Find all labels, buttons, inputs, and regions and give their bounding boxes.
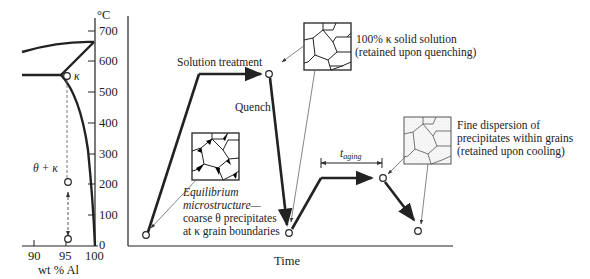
theta-kappa-label: θ + κ [33,162,58,174]
tick-600: 600 [99,54,118,68]
unit-label: °C [97,8,110,22]
liquidus-curve [22,42,94,52]
tick-200: 200 [99,177,118,191]
equilibrium-caption: Equilibrium microstructure— coarse θ pre… [182,186,280,238]
phase-diagram: °C 700 600 500 400 300 200 100 0 90 95 1… [22,8,118,277]
solid-solution-inset [304,23,351,70]
fine-dispersion-caption-line3: (retained upon cooling) [457,145,565,158]
kappa-point [64,73,71,80]
solid-solution-caption: 100% κ solid solution (retained upon que… [355,33,477,59]
equilibrium-caption-line3: coarse θ precipitates [183,212,277,225]
x-axis-label: wt % Al [38,263,80,277]
equilibrium-microstructure-inset [192,133,239,180]
equilibrium-point [143,232,150,239]
solid-solution-leader-to-quench [291,70,315,222]
two-phase-point [65,179,72,186]
solution-treatment-label: Solution treatment [177,56,263,68]
solid-solution-caption-line2: (retained upon quenching) [355,46,477,59]
final-cooling-line [385,182,414,220]
tick-100: 100 [85,249,104,263]
fine-dispersion-caption-line1: Fine dispersion of [457,119,540,132]
tick-300: 300 [99,147,118,161]
precipitation-hardening-diagram: °C 700 600 500 400 300 200 100 0 90 95 1… [0,0,590,279]
equilibrium-caption-line2: microstructure— [183,199,262,211]
room-temp-point [65,236,72,243]
equilibrium-caption-line4: at κ grain boundaries [183,225,280,238]
aging-time-label: taging [340,147,361,161]
solid-solution-leader-to-treatment [282,45,305,62]
fine-dispersion-inset [404,117,451,164]
tick-500: 500 [99,85,118,99]
fine-dispersion-leader-to-aged [388,156,406,174]
tick-400: 400 [99,116,118,130]
aged-point [380,175,387,182]
fine-dispersion-caption: Fine dispersion of precipitates within g… [457,119,574,158]
solvus-curve [61,75,95,246]
tick-90: 90 [28,249,41,263]
fine-dispersion-leader-to-final [421,164,428,224]
time-axis-label: Time [274,254,300,268]
tick-95: 95 [59,249,72,263]
quench-line [270,78,287,225]
fine-dispersion-caption-line2: precipitates within grains [457,132,574,145]
kappa-label: κ [74,70,80,82]
tick-700: 700 [99,24,118,38]
equilibrium-caption-line1: Equilibrium [182,186,239,199]
solution-treatment-point [266,71,273,78]
solid-solution-caption-line1: 100% κ solid solution [356,33,457,45]
quenched-point [286,230,293,237]
quench-label: Quench [235,101,271,113]
final-point [415,228,422,235]
x-ticks [34,240,66,246]
tick-100: 100 [99,208,118,222]
